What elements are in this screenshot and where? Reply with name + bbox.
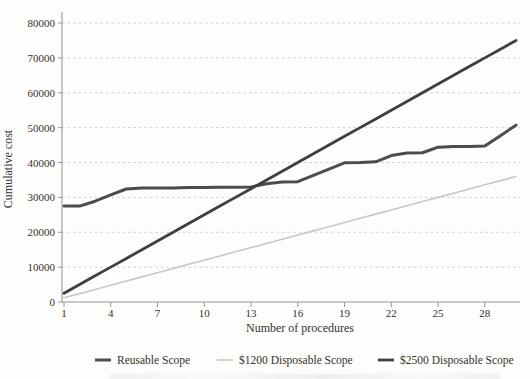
- y-axis-title: Cumulative cost: [1, 129, 15, 208]
- y-tick-label: 60000: [28, 87, 56, 99]
- x-tick-label: 7: [155, 307, 161, 319]
- y-tick-label: 80000: [28, 17, 56, 29]
- legend-label-2500-disposable-scope: $2500 Disposable Scope: [400, 354, 514, 367]
- y-tick-label: 10000: [28, 261, 56, 273]
- legend-item-2500-disposable-scope: $2500 Disposable Scope: [378, 354, 514, 367]
- x-tick-label: 25: [433, 307, 445, 319]
- x-tick-label: 16: [292, 307, 304, 319]
- chart-figure: 0100002000030000400005000060000700008000…: [0, 0, 530, 379]
- y-tick-label: 30000: [28, 191, 56, 203]
- legend: Reusable Scope$1200 Disposable Scope$250…: [95, 354, 514, 367]
- x-tick-label: 1: [61, 307, 67, 319]
- x-axis-title: Number of procedures: [246, 321, 354, 335]
- y-tick-label: 50000: [28, 122, 56, 134]
- x-tick-label: 28: [479, 307, 491, 319]
- legend-label-reusable-scope: Reusable Scope: [117, 354, 190, 367]
- y-tick-label: 70000: [28, 52, 56, 64]
- x-tick-label: 10: [199, 307, 211, 319]
- x-tick-label: 13: [246, 307, 258, 319]
- legend-label-1200-disposable-scope: $1200 Disposable Scope: [239, 354, 353, 367]
- cumulative-cost-line-chart: 0100002000030000400005000060000700008000…: [0, 0, 530, 379]
- y-tick-label: 40000: [28, 157, 56, 169]
- x-tick-label: 19: [339, 307, 351, 319]
- legend-item-reusable-scope: Reusable Scope: [95, 354, 190, 367]
- series-line-2500-disposable-scope: [64, 40, 516, 293]
- series-lines: [64, 40, 516, 297]
- y-tick-label: 0: [50, 296, 56, 308]
- x-tick-label: 22: [386, 307, 397, 319]
- legend-item-1200-disposable-scope: $1200 Disposable Scope: [217, 354, 353, 367]
- series-line-1200-disposable-scope: [64, 176, 516, 297]
- axes: [58, 12, 520, 307]
- y-tick-label: 20000: [28, 226, 56, 238]
- x-tick-label: 4: [108, 307, 114, 319]
